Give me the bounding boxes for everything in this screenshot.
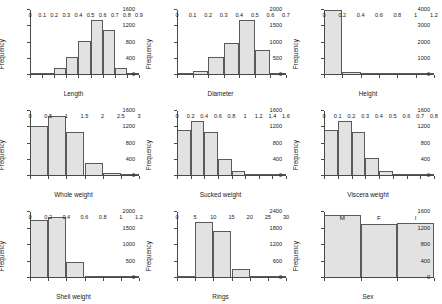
x-tick: [361, 278, 362, 281]
y-axis-line: [324, 212, 325, 278]
x-tick: [434, 176, 435, 179]
x-tick-label: 0: [28, 114, 31, 120]
x-tick: [342, 75, 343, 78]
y-tick-label: 1200: [418, 124, 430, 130]
y-tick: [321, 244, 324, 245]
x-tick-label: 0.7: [416, 114, 424, 120]
x-tick-label: 0.4: [75, 13, 83, 19]
x-tick: [361, 75, 362, 78]
x-tick: [177, 278, 178, 281]
y-tick-label: 800: [421, 242, 430, 248]
y-tick: [321, 126, 324, 127]
y-tick-label: 0: [132, 72, 135, 78]
x-tick-label: 0.2: [50, 13, 58, 19]
x-tick: [224, 75, 225, 78]
y-tick-label: 0: [427, 173, 430, 179]
y-tick-label: 400: [273, 157, 282, 163]
x-tick-label: 25: [265, 215, 271, 221]
x-tick-label: 0.5: [389, 114, 397, 120]
x-tick: [420, 176, 421, 179]
y-axis-line: [30, 111, 31, 176]
x-tick: [103, 176, 104, 179]
x-tick: [407, 176, 408, 179]
x-tick: [232, 176, 233, 179]
x-tick: [139, 75, 140, 78]
plot-area: 040080012001600MFI: [324, 212, 434, 278]
y-tick: [27, 244, 30, 245]
x-tick-label: 0: [28, 13, 31, 19]
x-tick: [78, 75, 79, 78]
x-tick-label: 0: [175, 114, 178, 120]
y-tick: [321, 261, 324, 262]
x-tick: [286, 75, 287, 78]
panel-rings: 0600120018002400051015202530RingsFrequen…: [147, 202, 294, 304]
y-tick-label: 0: [427, 72, 430, 78]
y-axis-title: Frequency: [293, 140, 299, 170]
y-tick: [27, 25, 30, 26]
plot-area: 0100020003000400000.20.40.60.811.2: [324, 10, 434, 75]
y-tick-label: 4000: [418, 7, 430, 13]
x-tick-label: 0.6: [81, 215, 89, 221]
y-tick-label: 2400: [270, 209, 282, 215]
y-tick: [321, 42, 324, 43]
y-tick: [27, 42, 30, 43]
x-axis-title: Sucked weight: [147, 192, 294, 198]
panel-diameter: 050010001500200000.10.20.30.40.50.60.7Di…: [147, 0, 294, 101]
x-tick-label: 1.4: [268, 114, 276, 120]
y-tick: [174, 261, 177, 262]
y-tick-label: 800: [126, 40, 135, 46]
x-tick: [208, 75, 209, 78]
x-tick-label: 0.9: [135, 13, 143, 19]
x-tick: [42, 75, 43, 78]
y-tick-label: 0: [132, 275, 135, 281]
x-axis-title: Rings: [147, 294, 294, 300]
x-tick: [397, 75, 398, 78]
x-tick-label: 30: [283, 215, 289, 221]
y-axis-title: Frequency: [146, 39, 152, 69]
y-tick-label: 0: [427, 275, 430, 281]
y-tick: [27, 143, 30, 144]
x-tick: [286, 278, 287, 281]
x-tick: [324, 278, 325, 281]
y-tick-label: 0: [132, 173, 135, 179]
y-tick-label: 1200: [123, 124, 135, 130]
y-tick-label: 1200: [123, 23, 135, 29]
y-axis-title: Frequency: [0, 39, 5, 69]
x-tick-label: 1.2: [135, 215, 143, 221]
panel-shell-weight: 050010001500200000.20.40.60.811.2Shell w…: [0, 202, 147, 304]
y-tick-label: 1600: [418, 209, 430, 215]
y-tick-label: 400: [421, 259, 430, 265]
y-tick-label: 400: [126, 157, 135, 163]
x-tick: [91, 75, 92, 78]
y-tick-label: 1000: [270, 40, 282, 46]
plot-area: 050010001500200000.10.20.30.40.50.60.7: [177, 10, 286, 75]
x-tick-label: 5: [194, 215, 197, 221]
x-axis-title: Whole weight: [0, 192, 147, 198]
y-tick: [27, 9, 30, 10]
histogram-grid: 04008001200160000.10.20.30.40.50.60.70.8…: [0, 0, 442, 304]
x-tick: [191, 176, 192, 179]
y-tick: [174, 244, 177, 245]
x-tick: [272, 176, 273, 179]
x-tick-label: 0.2: [204, 13, 212, 19]
x-tick-label: 0.1: [38, 13, 46, 19]
y-tick-label: 0: [279, 275, 282, 281]
x-tick: [127, 75, 128, 78]
y-tick: [321, 143, 324, 144]
x-tick-label: 15: [228, 215, 234, 221]
x-tick-label: 1: [244, 114, 247, 120]
y-tick-label: 400: [421, 157, 430, 163]
y-axis-title: Frequency: [146, 140, 152, 170]
x-tick-label: 0.7: [282, 13, 290, 19]
y-tick: [174, 228, 177, 229]
panel-whole-weight: 04008001200160000.511.522.53Whole weight…: [0, 101, 147, 202]
y-tick: [27, 228, 30, 229]
x-tick: [218, 176, 219, 179]
y-tick-label: 0: [279, 173, 282, 179]
x-tick-label: 0.4: [357, 13, 365, 19]
y-tick: [27, 126, 30, 127]
x-tick: [54, 75, 55, 78]
y-tick: [174, 58, 177, 59]
x-tick: [245, 176, 246, 179]
y-tick: [174, 42, 177, 43]
